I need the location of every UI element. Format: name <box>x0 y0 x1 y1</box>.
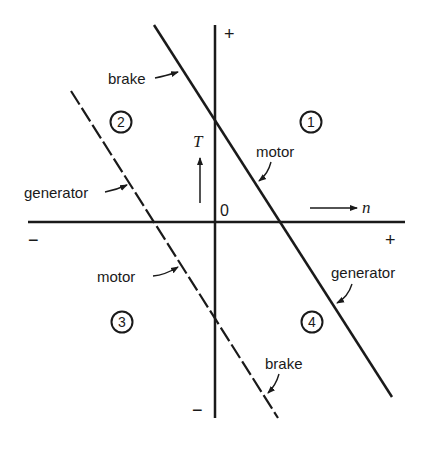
solid-generator-pointer-icon <box>337 284 352 303</box>
speed-label: n <box>362 198 371 217</box>
dashed-generator-label: generator <box>24 184 88 201</box>
dashed-brake-pointer-icon <box>268 374 279 393</box>
solid-brake-label: brake <box>108 70 146 87</box>
svg-text:4: 4 <box>308 314 316 330</box>
solid-characteristic-line <box>154 25 392 397</box>
dashed-brake-label: brake <box>265 355 303 372</box>
horizontal-left-sign: − <box>28 230 39 250</box>
torque-speed-diagram: + − − + 0 T n 1 2 3 4 brake motor genera… <box>0 0 430 450</box>
quadrant-4-marker: 4 <box>302 312 323 333</box>
quadrant-1-marker: 1 <box>301 112 322 133</box>
horizontal-right-sign: + <box>385 230 396 250</box>
dashed-characteristic-line <box>71 91 278 418</box>
dashed-motor-label: motor <box>97 268 135 285</box>
svg-text:3: 3 <box>118 314 126 330</box>
dashed-motor-pointer-icon <box>153 267 178 276</box>
origin-label: 0 <box>220 202 229 219</box>
solid-motor-pointer-icon <box>259 162 271 181</box>
quadrant-3-marker: 3 <box>112 312 133 333</box>
solid-motor-label: motor <box>256 143 294 160</box>
vertical-top-sign: + <box>224 24 235 44</box>
torque-label: T <box>193 132 204 151</box>
vertical-bottom-sign: − <box>192 400 203 420</box>
svg-text:1: 1 <box>307 114 315 130</box>
solid-generator-label: generator <box>331 264 395 281</box>
dashed-generator-pointer-icon <box>105 185 127 192</box>
solid-brake-pointer-icon <box>155 72 178 78</box>
quadrant-2-marker: 2 <box>111 112 132 133</box>
svg-text:2: 2 <box>117 114 125 130</box>
